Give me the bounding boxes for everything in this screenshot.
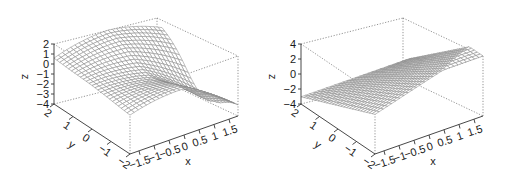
x-tick-label: −0.5	[158, 142, 182, 160]
y-axis-label: y	[312, 138, 324, 151]
x-axis-label: x	[185, 155, 191, 167]
surface-mesh	[54, 26, 238, 115]
z-tick-label: 0	[290, 68, 296, 80]
y-tick-label: 0	[80, 131, 92, 144]
z-axis-label: z	[20, 74, 32, 80]
x-tick-label: 0	[180, 140, 190, 153]
x-tick-label: 0.5	[436, 133, 454, 149]
z-axis-label: z	[267, 74, 279, 80]
y-tick-label: −1	[342, 142, 359, 159]
surface-plot-right-canvas: 420−2−4z210−1−2y−1.5−1−0.500.511.5x	[255, 0, 511, 181]
x-tick-label: 0	[425, 140, 435, 153]
z-tick-label: 4	[290, 38, 296, 50]
y-tick-label: 1	[61, 119, 73, 132]
x-tick-label: 1	[455, 129, 465, 142]
surface-plot-right: 420−2−4z210−1−2y−1.5−1−0.500.511.5x	[255, 0, 511, 181]
x-tick-label: 1.5	[466, 122, 484, 138]
surface-plot-left-canvas: 210−1−2−3−4z210−1−2y−1.5−1−0.500.511.5x	[0, 0, 256, 181]
x-tick-label: 1	[210, 129, 220, 142]
surface-plot-left: 210−1−2−3−4z210−1−2y−1.5−1−0.500.511.5x	[0, 0, 256, 181]
x-axis-label: x	[430, 155, 436, 167]
x-tick-label: −0.5	[403, 142, 427, 160]
y-tick-label: −1	[97, 142, 114, 159]
y-axis-label: y	[66, 138, 78, 151]
y-tick-label: 0	[326, 131, 338, 144]
y-tick-label: 1	[308, 119, 320, 132]
z-tick-label: 2	[290, 53, 296, 65]
x-tick-label: 1.5	[221, 122, 239, 138]
x-tick-label: 0.5	[191, 133, 209, 149]
surface-mesh	[301, 47, 483, 115]
z-tick-label: −2	[283, 83, 296, 95]
